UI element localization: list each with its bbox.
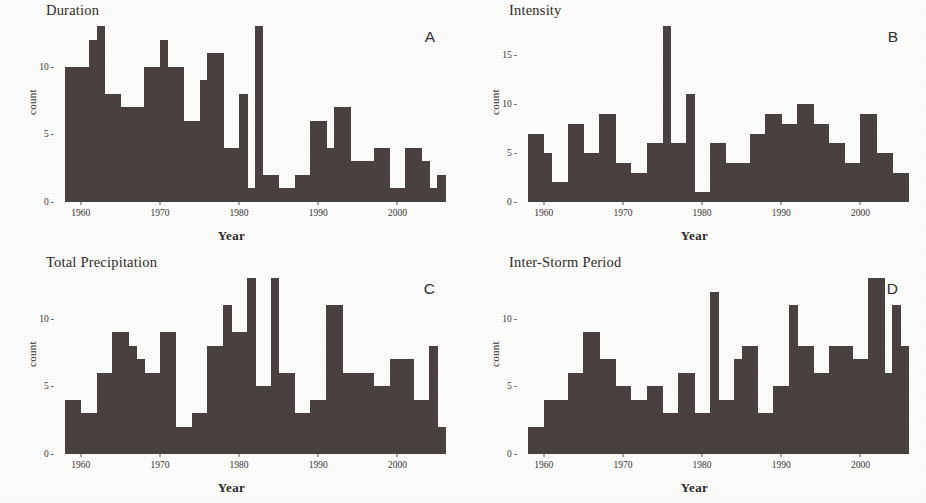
panel-b-bars <box>520 26 908 202</box>
x-tick-label: 1970 <box>613 454 632 470</box>
panel-b-plot-area: 0-5-10-15- <box>520 26 908 202</box>
y-tick-label: 5- <box>507 381 520 391</box>
panel-total-precipitation: Total Precipitation C count 0-5-10- 1960… <box>0 252 463 503</box>
x-tick-label: 1980 <box>230 454 249 470</box>
panel-d-xlabel: Year <box>463 480 926 496</box>
bar <box>900 173 909 202</box>
panel-c-ylabel: count <box>26 324 38 384</box>
panel-intensity: Intensity B count 0-5-10-15- 19601970198… <box>463 0 926 251</box>
bar <box>437 427 446 454</box>
panel-c-xticks: 19601970198019902000 <box>57 454 445 480</box>
x-tick-label: 1960 <box>71 202 90 218</box>
x-tick-label: 2000 <box>388 202 407 218</box>
y-tick-label: 10- <box>502 314 520 324</box>
panel-b-title: Intensity <box>509 2 562 19</box>
x-tick-label: 2000 <box>851 454 870 470</box>
panel-a-ylabel: count <box>26 72 38 132</box>
panel-a-xlabel: Year <box>0 228 463 244</box>
x-tick-label: 1960 <box>534 202 553 218</box>
panel-a-plot-area: 0-5-10- <box>57 26 445 202</box>
panel-d-ylabel: count <box>489 324 501 384</box>
panel-d-xticks: 19601970198019902000 <box>520 454 908 480</box>
y-tick-label: 10- <box>39 314 57 324</box>
x-tick-label: 1980 <box>693 454 712 470</box>
x-tick-label: 2000 <box>851 202 870 218</box>
panel-a-bars <box>57 26 445 202</box>
panel-b-xlabel: Year <box>463 228 926 244</box>
panel-a-xticks: 19601970198019902000 <box>57 202 445 228</box>
y-tick-label: 0- <box>44 449 57 459</box>
panel-d-plot-area: 0-5-10- <box>520 278 908 454</box>
y-tick-label: 0- <box>44 197 57 207</box>
panel-c-title: Total Precipitation <box>46 254 157 271</box>
bar <box>437 175 446 202</box>
y-tick-label: 15- <box>502 50 520 60</box>
x-tick-label: 1960 <box>71 454 90 470</box>
x-tick-label: 1990 <box>772 454 791 470</box>
panel-b-ylabel: count <box>489 72 501 132</box>
x-tick-label: 1970 <box>150 202 169 218</box>
panel-inter-storm-period: Inter-Storm Period D count 0-5-10- 19601… <box>463 252 926 503</box>
bar <box>900 346 909 454</box>
panel-c-plot-area: 0-5-10- <box>57 278 445 454</box>
panel-d-bars <box>520 278 908 454</box>
x-tick-label: 1990 <box>772 202 791 218</box>
panel-a-title: Duration <box>46 2 99 19</box>
panel-b-xticks: 19601970198019902000 <box>520 202 908 228</box>
x-tick-label: 1980 <box>230 202 249 218</box>
y-tick-label: 5- <box>44 381 57 391</box>
y-tick-label: 10- <box>502 99 520 109</box>
bar <box>239 94 248 202</box>
x-tick-label: 1980 <box>693 202 712 218</box>
y-tick-label: 5- <box>44 129 57 139</box>
panel-c-bars <box>57 278 445 454</box>
panel-d-title: Inter-Storm Period <box>509 254 621 271</box>
panel-c-xlabel: Year <box>0 480 463 496</box>
x-tick-label: 1990 <box>309 454 328 470</box>
x-tick-label: 1970 <box>150 454 169 470</box>
y-tick-label: 10- <box>39 62 57 72</box>
bar <box>686 94 695 202</box>
figure-container: Duration A count 0-5-10- 196019701980199… <box>0 0 926 503</box>
x-tick-label: 1990 <box>309 202 328 218</box>
x-tick-label: 2000 <box>388 454 407 470</box>
x-tick-label: 1960 <box>534 454 553 470</box>
y-tick-label: 0- <box>507 197 520 207</box>
y-tick-label: 5- <box>507 148 520 158</box>
panel-duration: Duration A count 0-5-10- 196019701980199… <box>0 0 463 251</box>
x-tick-label: 1970 <box>613 202 632 218</box>
y-tick-label: 0- <box>507 449 520 459</box>
